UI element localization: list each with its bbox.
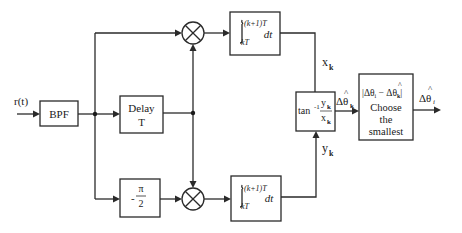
phase-sign: -: [131, 192, 135, 204]
arctan-func: tan: [298, 105, 310, 116]
arctan-num: y: [321, 97, 326, 108]
integrator-top-dt: dt: [264, 28, 274, 40]
junction-dot-input: [93, 112, 97, 116]
dtk-sub: k: [350, 102, 354, 110]
integrator-top-upper: (k+1)T: [244, 19, 267, 28]
dtk-theta: θ: [343, 95, 348, 107]
integrator-top-lower: kT: [241, 38, 250, 47]
yk-base: y: [322, 141, 328, 155]
output-label: ^ Δ θ i: [419, 84, 435, 106]
arctan-den: x: [321, 112, 326, 123]
chooser-block: |Δθi − Δθk| ^ Choose the smallest: [359, 74, 413, 140]
xk-sub: k: [329, 63, 334, 72]
delay-period-label: T: [138, 116, 145, 128]
chooser-line3: smallest: [369, 126, 403, 137]
chooser-hat: ^: [398, 81, 402, 90]
out-theta: θ: [426, 92, 431, 104]
phase-numerator: π: [138, 183, 143, 194]
integrator-bottom: (k+1)T kT dt: [231, 176, 281, 221]
arctan-den-sub: k: [327, 118, 331, 126]
delta-theta-k-label: ^ Δ θ k: [336, 88, 354, 110]
phase-denominator: 2: [139, 198, 144, 209]
xk-label: x k: [322, 55, 334, 72]
block-diagram: r(t) BPF Delay T - π 2 (k+1)T kT dt: [0, 0, 462, 233]
bpf-label: BPF: [49, 108, 69, 120]
integrator-bottom-dt: dt: [265, 192, 275, 204]
chooser-line2: the: [380, 114, 393, 125]
bpf-block: BPF: [40, 101, 78, 126]
integrator-bottom-lower: kT: [241, 202, 250, 211]
yk-label: y k: [322, 141, 334, 158]
chooser-line1: Choose: [370, 102, 402, 113]
multiplier-bottom: [182, 188, 204, 210]
out-sub: i: [433, 98, 435, 106]
phase-shift-block: - π 2: [120, 179, 160, 217]
arctan-num-sub: k: [327, 103, 331, 111]
yk-sub: k: [329, 149, 334, 158]
xk-base: x: [322, 55, 328, 69]
junction-dot-delay: [191, 111, 195, 115]
chooser-expr: |Δθi − Δθk|: [362, 88, 402, 99]
integrator-top: (k+1)T kT dt: [230, 12, 280, 55]
input-label: r(t): [14, 95, 28, 108]
delay-label: Delay: [128, 102, 155, 114]
arctan-block: tan -1 y k x k: [296, 92, 335, 131]
multiplier-top: [182, 22, 204, 44]
delay-block: Delay T: [120, 96, 163, 133]
arctan-exp: -1: [314, 103, 320, 111]
